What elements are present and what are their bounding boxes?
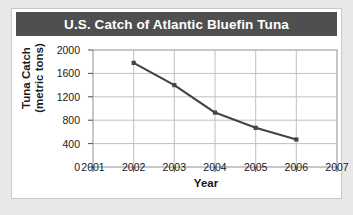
x-tick-label: 2005 [233,161,279,173]
x-axis-tick-labels: 2001 2002 2003 2004 2005 2006 2007 [12,161,343,177]
data-point-marker [213,111,217,115]
x-tick-label: 2007 [314,161,353,173]
data-point-marker [172,83,176,87]
x-axis-label: Year [82,177,330,189]
x-tick-label: 2003 [151,161,197,173]
plot-area-wrapper: Tuna Catch (metric tons) 0 400 800 1200 … [12,9,343,200]
y-axis-ticks [88,50,93,167]
x-tick-label: 2004 [192,161,238,173]
x-tick-label: 2001 [70,161,116,173]
chart-figure-card: U.S. Catch of Atlantic Bluefin Tuna Tuna… [11,8,342,199]
data-point-marker [294,137,298,141]
x-tick-label: 2002 [111,161,157,173]
x-tick-label: 2006 [273,161,319,173]
data-point-marker [132,61,136,65]
data-point-marker [254,126,258,130]
